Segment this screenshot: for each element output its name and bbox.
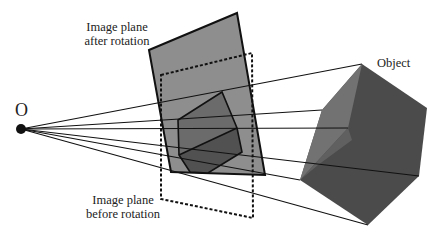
plane-before-label-line2: before rotation bbox=[86, 207, 161, 221]
ray-inner-vertex bbox=[21, 128, 348, 129]
plane-before-label-line1: Image plane bbox=[92, 193, 154, 207]
diagram-canvas: O Image plane after rotation Image plane… bbox=[0, 0, 438, 239]
plane-after-label-line2: after rotation bbox=[85, 34, 151, 48]
origin-label: O bbox=[15, 100, 28, 120]
projection-diagram: O Image plane after rotation Image plane… bbox=[0, 0, 438, 239]
object-cube bbox=[300, 64, 427, 225]
object-label: Object bbox=[377, 56, 411, 70]
plane-after-label-line1: Image plane bbox=[86, 20, 148, 34]
origin-point bbox=[16, 124, 26, 134]
